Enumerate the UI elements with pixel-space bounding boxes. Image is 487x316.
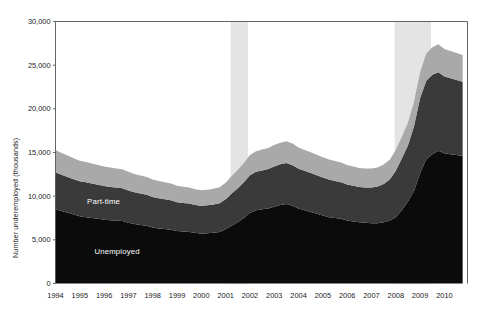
- y-axis-title: Number underemployed (thousands): [11, 138, 20, 258]
- y-tick-label: 25,000: [21, 61, 51, 70]
- y-tick-label: 0: [21, 279, 51, 288]
- x-tick-label: 2010: [429, 291, 459, 300]
- y-tick-label: 10,000: [21, 192, 51, 201]
- plot-area: [0, 0, 487, 316]
- series-label-marginally-attached: Marginally attached: [94, 141, 164, 150]
- underemployment-area-chart: Number underemployed (thousands) 05,0001…: [0, 0, 487, 316]
- series-label-part-time: Part-time: [87, 197, 120, 206]
- y-tick-label: 5,000: [21, 235, 51, 244]
- y-tick-label: 20,000: [21, 104, 51, 113]
- series-label-unemployed: Unemployed: [94, 247, 139, 256]
- y-tick-label: 15,000: [21, 148, 51, 157]
- y-tick-label: 30,000: [21, 17, 51, 26]
